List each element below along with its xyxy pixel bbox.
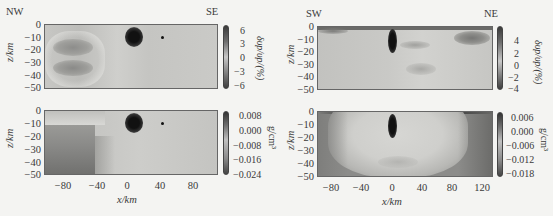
earthquake-cluster <box>388 29 397 53</box>
profile-end-se: SE <box>206 7 218 18</box>
colorbar-velocity-left <box>223 25 229 89</box>
velocity-heatmap-left <box>44 24 218 89</box>
y-axis-label: z/km <box>285 131 296 150</box>
colorbar-label-velocity: δυp/υp/(%) <box>255 36 266 80</box>
earthquake-cluster <box>125 113 143 133</box>
profile-end-ne: NE <box>484 9 498 20</box>
x-axis-label: x/km <box>382 197 402 208</box>
earthquake-point <box>161 122 164 125</box>
earthquake-point <box>161 36 164 39</box>
colorbar-label-density: g/cm³ <box>539 128 550 151</box>
earthquake-cluster <box>125 27 143 47</box>
profile-end-sw: SW <box>306 9 322 20</box>
y-axis-label: z/km <box>4 129 15 148</box>
colorbar-label-density: g/cm³ <box>267 126 278 149</box>
velocity-heatmap-right <box>317 26 493 90</box>
x-axis-label: x/km <box>117 195 137 206</box>
y-axis-label: z/km <box>4 43 15 62</box>
colorbar-velocity-right <box>497 26 503 90</box>
profile-end-nw: NW <box>6 7 24 18</box>
colorbar-density-right <box>497 112 503 177</box>
density-heatmap-right <box>317 111 493 177</box>
earthquake-cluster <box>388 114 397 138</box>
colorbar-label-velocity: δυp/υp/(%) <box>533 40 544 84</box>
density-heatmap-left <box>44 110 218 175</box>
colorbar-density-left <box>223 111 229 175</box>
y-axis-label: z/km <box>285 45 296 64</box>
